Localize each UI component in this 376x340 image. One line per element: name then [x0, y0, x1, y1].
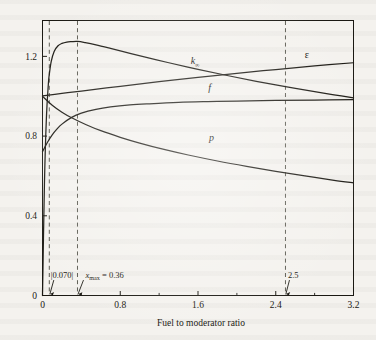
annotation-x-0070: |0.070|: [50, 270, 74, 296]
y-tick-label: 1.2: [25, 52, 37, 62]
curve-label-epsilon: ε: [305, 49, 309, 60]
reactor-four-factor-chart: 00.81.62.43.200.40.81.2k∞εfp|0.070|xmax …: [0, 0, 376, 340]
curve-k_inf: [43, 41, 354, 295]
annotation-text-0070: |0.070|: [51, 270, 74, 280]
figure-canvas: 00.81.62.43.200.40.81.2k∞εfp|0.070|xmax …: [0, 0, 376, 340]
x-tick-label: 2.4: [270, 300, 282, 310]
curve-label-k_inf: k∞: [191, 55, 200, 67]
x-tick-label: 0: [40, 300, 45, 310]
curve-label-p: p: [208, 132, 214, 143]
annotation-text-x-max: xmax = 0.36: [84, 270, 123, 281]
x-tick-label: 0.8: [114, 300, 126, 310]
annotation-arrow-x-max: [78, 280, 83, 294]
x-tick-label: 1.6: [192, 300, 204, 310]
x-axis-title: Fuel to moderator ratio: [157, 318, 245, 328]
curve-label-f: f: [208, 82, 212, 93]
annotation-x-25: 2.5: [286, 270, 299, 296]
x-tick-label: 3.2: [348, 300, 360, 310]
y-tick-label: 0.4: [25, 211, 37, 221]
curve-p: [43, 96, 354, 183]
annotation-arrow-25: [286, 280, 290, 294]
y-tick-label: 0.8: [25, 131, 37, 141]
annotation-arrow-0070: [50, 280, 54, 294]
annotation-x-max: xmax = 0.36: [78, 270, 124, 296]
annotation-text-25: 2.5: [288, 270, 299, 280]
y-tick-label: 0: [32, 291, 37, 301]
